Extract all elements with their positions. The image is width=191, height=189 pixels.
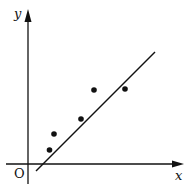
y-axis-label: y	[13, 6, 22, 21]
data-point	[91, 87, 97, 93]
origin-label: O	[14, 166, 25, 181]
regression-line	[36, 52, 155, 171]
x-axis-label: x	[175, 168, 183, 183]
scatter-chart: x y O	[0, 0, 191, 189]
x-axis-arrow-icon	[172, 161, 184, 168]
data-point	[122, 86, 128, 92]
axes	[6, 9, 184, 184]
data-point	[51, 131, 57, 137]
y-axis-arrow-icon	[25, 9, 32, 22]
data-point	[47, 147, 53, 153]
data-point	[78, 116, 84, 122]
